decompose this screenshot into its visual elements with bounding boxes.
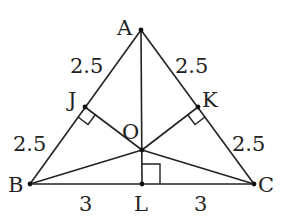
label-o: O — [122, 120, 139, 144]
point-l — [140, 182, 145, 187]
point-b — [28, 182, 33, 187]
length-ak: 2.5 — [175, 54, 208, 78]
label-l: L — [134, 192, 148, 216]
point-c — [252, 182, 257, 187]
right-angle-mark-l — [142, 164, 160, 184]
point-a — [139, 28, 144, 33]
label-a: A — [116, 16, 133, 40]
point-k — [196, 105, 201, 110]
label-k: K — [202, 88, 218, 112]
length-kc: 2.5 — [232, 132, 265, 156]
right-angle-mark-k — [188, 115, 206, 125]
length-jb: 2.5 — [13, 132, 46, 156]
point-o — [140, 148, 145, 153]
segment-al — [141, 30, 142, 184]
point-j — [83, 105, 88, 110]
segment-ko — [142, 107, 198, 150]
length-aj: 2.5 — [70, 54, 103, 78]
label-j: J — [66, 88, 76, 112]
length-bl: 3 — [79, 192, 92, 216]
triangle-diagram: A B C J K O L 2.5 2.5 2.5 2.5 3 3 — [0, 0, 284, 216]
right-angle-mark-j — [78, 115, 96, 125]
segment-bo — [30, 150, 142, 184]
length-lc: 3 — [194, 192, 207, 216]
label-b: B — [8, 173, 23, 197]
label-c: C — [258, 173, 274, 197]
